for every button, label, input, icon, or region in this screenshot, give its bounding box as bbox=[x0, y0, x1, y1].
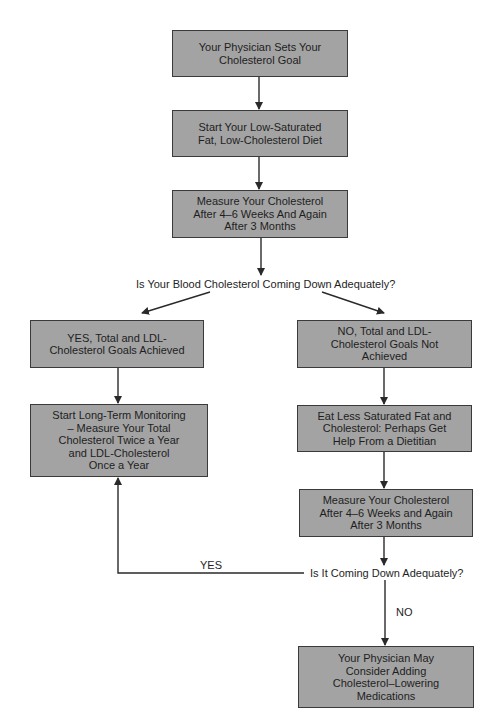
node-yes-goals-achieved: YES, Total and LDL- Cholesterol Goals Ac… bbox=[30, 320, 204, 368]
node-no-goals-not-achieved: NO, Total and LDL- Cholesterol Goals Not… bbox=[297, 320, 472, 368]
edge-label-no: NO bbox=[396, 606, 413, 619]
node-measure-cholesterol: Measure Your Cholesterol After 4–6 Weeks… bbox=[172, 190, 348, 238]
node-measure-again: Measure Your Cholesterol After 4–6 Weeks… bbox=[299, 489, 473, 537]
node-start-diet: Start Your Low-Saturated Fat, Low-Choles… bbox=[172, 110, 348, 157]
node-eat-less-fat: Eat Less Saturated Fat and Cholesterol: … bbox=[297, 405, 472, 452]
node-long-term-monitoring: Start Long-Term Monitoring – Measure You… bbox=[30, 404, 208, 477]
edge-label-yes: YES bbox=[200, 559, 222, 572]
node-consider-medications: Your Physician May Consider Adding Chole… bbox=[298, 646, 474, 708]
node-physician-sets-goal: Your Physician Sets Your Cholesterol Goa… bbox=[172, 30, 348, 77]
decision-coming-down: Is It Coming Down Adequately? bbox=[310, 567, 463, 580]
decision-blood-cholesterol: Is Your Blood Cholesterol Coming Down Ad… bbox=[136, 278, 395, 291]
